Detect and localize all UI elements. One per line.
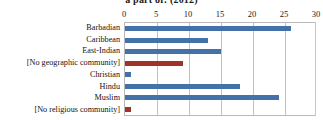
x-tick-label: 5 bbox=[154, 9, 158, 19]
category-label: East-Indian bbox=[0, 46, 122, 58]
bar bbox=[125, 107, 131, 112]
x-tick-label: 20 bbox=[248, 9, 257, 19]
x-tick-label: 10 bbox=[184, 9, 193, 19]
bar-row bbox=[125, 104, 315, 116]
bar-row bbox=[125, 69, 315, 81]
x-axis-tick-labels: 051015202530 bbox=[0, 9, 323, 20]
category-label: Hindu bbox=[0, 81, 122, 93]
category-label: Muslim bbox=[0, 93, 122, 105]
bar-row bbox=[125, 58, 315, 70]
bar bbox=[125, 26, 291, 31]
bar-row bbox=[125, 23, 315, 35]
horizontal-bar-chart: a part of: (2012) 051015202530 Barbadian… bbox=[0, 0, 323, 120]
bar-row bbox=[125, 81, 315, 93]
chart-title: a part of: (2012) bbox=[0, 0, 323, 6]
bar bbox=[125, 38, 208, 43]
x-tick-label: 25 bbox=[280, 9, 289, 19]
category-axis-labels: BarbadianCaribbeanEast-Indian[No geograp… bbox=[0, 22, 122, 116]
bar bbox=[125, 95, 279, 100]
plot-area bbox=[124, 22, 316, 116]
bar bbox=[125, 72, 131, 77]
bar-row bbox=[125, 46, 315, 58]
category-label: Barbadian bbox=[0, 22, 122, 34]
x-tick-label: 0 bbox=[122, 9, 126, 19]
category-label: Christian bbox=[0, 69, 122, 81]
bar bbox=[125, 61, 183, 66]
x-tick-label: 15 bbox=[216, 9, 225, 19]
category-label: [No religious community] bbox=[0, 104, 122, 116]
category-label: [No geographic community] bbox=[0, 57, 122, 69]
bar-row bbox=[125, 35, 315, 47]
category-label: Caribbean bbox=[0, 34, 122, 46]
bars-container bbox=[125, 23, 315, 115]
bar bbox=[125, 84, 240, 89]
bar-row bbox=[125, 92, 315, 104]
bar bbox=[125, 49, 221, 54]
x-tick-label: 30 bbox=[312, 9, 321, 19]
